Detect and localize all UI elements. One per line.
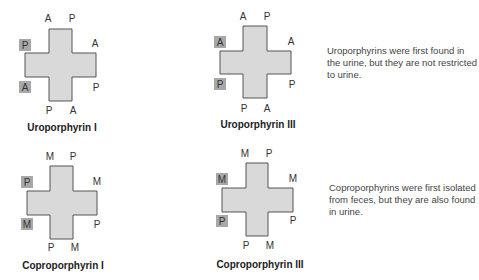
structure-title: Coproporphyrin I xyxy=(22,260,104,271)
label-bottom-left: P xyxy=(48,242,55,253)
label-bottom-left: P xyxy=(46,105,53,116)
label-left-upper: A xyxy=(217,37,224,48)
structure-title: Uroporphyrin III xyxy=(221,119,296,130)
label-right-upper: A xyxy=(92,38,99,49)
label-bottom-right: A xyxy=(70,105,77,116)
label-top-left: M xyxy=(46,151,54,162)
label-bottom-right: A xyxy=(264,103,271,114)
coproporphyrins-note: Coproporphyrins were first isolated from… xyxy=(329,182,479,218)
label-top-left: A xyxy=(240,11,247,22)
label-bottom-left: P xyxy=(243,240,250,251)
label-top-left: A xyxy=(45,13,52,24)
structure-uroporphyrin-iii: A P A A P P P A Uroporphyrin III xyxy=(214,11,296,130)
label-bottom-right: M xyxy=(71,242,79,253)
label-top-left: M xyxy=(241,148,249,159)
label-right-lower: P xyxy=(289,79,296,90)
porphyrin-cross-shape xyxy=(222,163,293,236)
label-top-right: P xyxy=(70,151,77,162)
label-left-upper: P xyxy=(22,40,29,51)
label-top-right: P xyxy=(264,11,271,22)
label-right-lower: P xyxy=(94,219,101,230)
label-right-upper: A xyxy=(288,36,295,47)
label-left-lower: A xyxy=(22,82,29,93)
structure-title: Coproporphyrin III xyxy=(216,259,303,270)
label-bottom-left: P xyxy=(241,103,248,114)
structure-title: Uroporphyrin I xyxy=(27,122,97,133)
label-top-right: P xyxy=(266,148,273,159)
structure-uroporphyrin-i: A P P A A P P A Uroporphyrin I xyxy=(19,13,100,133)
label-left-upper: M xyxy=(218,174,226,185)
label-left-upper: P xyxy=(24,177,31,188)
porphyrin-cross-shape xyxy=(220,26,291,98)
label-left-lower: M xyxy=(23,219,31,230)
structure-coproporphyrin-iii: M P M M P P P M Coproporphyrin III xyxy=(216,148,304,270)
label-left-lower: P xyxy=(217,79,224,90)
structure-coproporphyrin-i: M P P M M P P M Coproporphyrin I xyxy=(21,151,104,271)
label-right-lower: P xyxy=(93,82,100,93)
porphyrin-cross-shape xyxy=(27,166,97,239)
label-top-right: P xyxy=(69,13,76,24)
label-bottom-right: M xyxy=(266,240,274,251)
label-right-upper: M xyxy=(93,176,101,187)
label-right-upper: M xyxy=(289,173,297,184)
uroporphyrins-note: Uroporphyrins were first found in the ur… xyxy=(327,45,477,81)
porphyrin-cross-shape xyxy=(25,29,96,101)
label-left-lower: P xyxy=(219,216,226,227)
label-right-lower: P xyxy=(290,215,297,226)
